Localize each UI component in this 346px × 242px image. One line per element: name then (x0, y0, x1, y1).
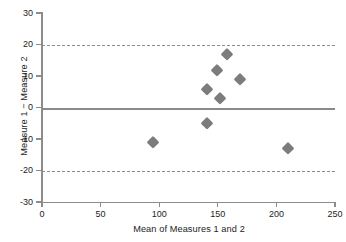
plot-area (42, 13, 335, 202)
data-point (211, 64, 223, 76)
y-tick (36, 107, 41, 108)
y-tick-label: -20 (0, 165, 33, 175)
y-tick (36, 201, 41, 202)
x-tick (41, 202, 42, 207)
y-tick-label: -10 (0, 134, 33, 144)
upper-limit-of-agreement-line (42, 45, 335, 46)
data-point (221, 48, 233, 60)
y-tick (36, 44, 41, 45)
x-tick (217, 202, 218, 207)
x-tick (334, 202, 335, 207)
data-point (282, 142, 294, 154)
y-tick (36, 170, 41, 171)
data-point (234, 73, 246, 85)
x-axis-label: Mean of Measures 1 and 2 (42, 224, 336, 234)
x-tick (100, 202, 101, 207)
y-tick (36, 12, 41, 13)
x-tick-label: 100 (139, 209, 179, 219)
bland-altman-chart: Measure 1 − Measure 2 Mean of Measures 1… (0, 0, 346, 242)
y-tick-label: 0 (0, 102, 33, 112)
y-tick (36, 75, 41, 76)
y-tick-label: 20 (0, 39, 33, 49)
data-point (214, 92, 226, 104)
data-point (201, 83, 213, 95)
y-tick-label: -30 (0, 197, 33, 207)
x-tick-label: 50 (81, 209, 121, 219)
x-tick-label: 200 (256, 209, 296, 219)
y-tick-label: 30 (0, 8, 33, 18)
x-tick-label: 250 (315, 209, 346, 219)
y-tick (36, 138, 41, 139)
x-tick-label: 0 (22, 209, 62, 219)
data-point (201, 117, 213, 129)
bias-line (42, 108, 335, 110)
lower-limit-of-agreement-line (42, 171, 335, 172)
x-tick-label: 150 (198, 209, 238, 219)
x-tick (276, 202, 277, 207)
x-tick (159, 202, 160, 207)
data-point (147, 136, 159, 148)
y-tick-label: 10 (0, 71, 33, 81)
